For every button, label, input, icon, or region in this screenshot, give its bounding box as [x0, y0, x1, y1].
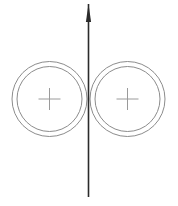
figure-root — [0, 0, 178, 206]
diagram-canvas — [0, 0, 178, 206]
